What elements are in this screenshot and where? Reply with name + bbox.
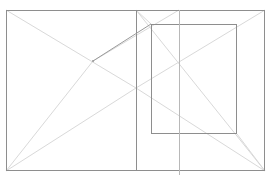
line-inner-to-corner — [237, 134, 265, 171]
line-topright-to-mid — [136, 10, 265, 88]
point-p — [92, 60, 94, 62]
line-top-to-bottomright — [136, 10, 265, 171]
inner-rectangle — [152, 25, 237, 134]
line-p-to-inner — [93, 24, 151, 61]
line-bottomleft-to-mid — [6, 88, 136, 171]
line-topleft-to-mid — [6, 10, 136, 88]
line-mid-to-bottomright — [136, 88, 265, 171]
geometry-diagram — [0, 0, 269, 175]
line-inner-topleft — [136, 10, 151, 24]
line-bottomleft-to-p — [6, 61, 93, 171]
